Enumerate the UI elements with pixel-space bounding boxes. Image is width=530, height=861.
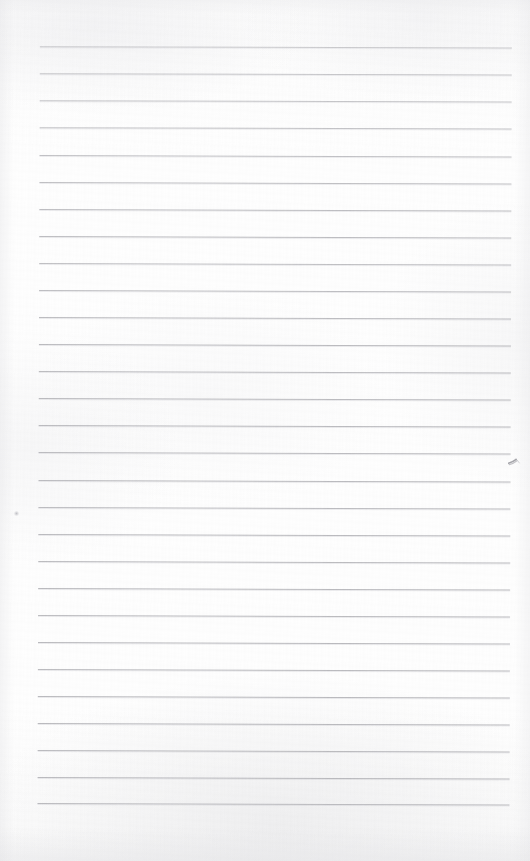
ruled-line <box>39 398 511 400</box>
ruled-line <box>37 803 509 805</box>
ruled-line <box>40 155 512 157</box>
ruled-line <box>38 723 510 725</box>
ruled-line <box>38 507 510 509</box>
ruled-line <box>39 425 511 427</box>
ruled-line <box>39 452 511 454</box>
ruled-line <box>38 480 510 482</box>
ruled-line <box>38 588 510 590</box>
ruled-line <box>39 263 511 265</box>
ruled-line <box>38 750 510 752</box>
ruled-line <box>39 371 511 373</box>
ruled-line <box>39 344 511 346</box>
ruled-line <box>38 642 510 644</box>
ruled-line <box>39 317 511 319</box>
ruled-line <box>38 669 510 671</box>
ruled-line <box>38 615 510 617</box>
ruled-line <box>38 561 510 563</box>
ruled-line <box>38 696 510 698</box>
ruled-line <box>40 127 512 129</box>
ruled-line <box>38 534 510 536</box>
scanned-page <box>0 0 530 861</box>
ruled-line <box>40 46 512 48</box>
ruled-line <box>38 777 510 779</box>
ruled-line <box>40 73 512 75</box>
ruled-line <box>40 100 512 102</box>
ruled-line <box>39 236 511 238</box>
ruled-line <box>39 182 511 184</box>
ruled-lines-group <box>0 0 530 861</box>
ruled-line <box>39 209 511 211</box>
ruled-line <box>39 290 511 292</box>
